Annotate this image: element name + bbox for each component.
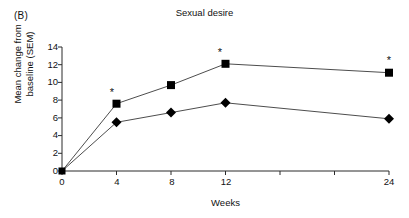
x-axis	[62, 171, 389, 175]
series-markers-square	[59, 60, 394, 175]
plot-area	[0, 0, 409, 218]
y-axis	[58, 47, 62, 171]
series-line-diamond	[62, 103, 389, 171]
figure-panel-b: (B) Sexual desire Mean change from basel…	[0, 0, 409, 218]
series-line-square	[62, 64, 389, 171]
series-markers-diamond	[112, 98, 395, 128]
